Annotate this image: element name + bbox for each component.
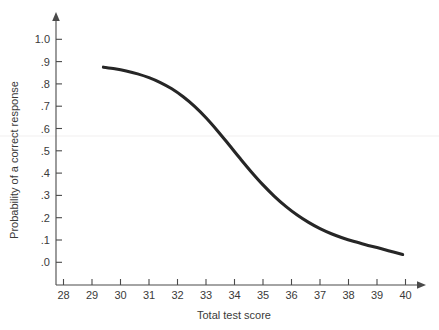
y-tick-label: .0 bbox=[41, 256, 50, 268]
x-axis-title: Total test score bbox=[197, 309, 271, 321]
x-tick-label: 33 bbox=[200, 289, 212, 301]
x-axis-arrow-icon bbox=[417, 281, 426, 289]
x-tick-label: 38 bbox=[342, 289, 354, 301]
x-tick-label: 39 bbox=[371, 289, 383, 301]
x-tick-label: 32 bbox=[171, 289, 183, 301]
y-tick-marks bbox=[56, 39, 62, 262]
y-tick-label: 1.0 bbox=[35, 33, 50, 45]
y-tick-label: .5 bbox=[41, 145, 50, 157]
x-tick-label: 35 bbox=[257, 289, 269, 301]
y-tick-label: .1 bbox=[41, 234, 50, 246]
x-tick-label: 37 bbox=[314, 289, 326, 301]
y-axis-title: Probability of a correct response bbox=[8, 81, 20, 239]
probability-curve-chart: 1.0 .9 .8 .7 .6 .5 .4 .3 .2 .1 .0 28 29 bbox=[0, 0, 439, 330]
x-tick-marks bbox=[64, 279, 406, 285]
x-tick-label: 29 bbox=[86, 289, 98, 301]
probability-curve-line bbox=[103, 67, 402, 254]
y-axis-arrow-icon bbox=[52, 12, 60, 21]
x-tick-label: 36 bbox=[285, 289, 297, 301]
x-tick-label: 30 bbox=[114, 289, 126, 301]
y-tick-label: .6 bbox=[41, 123, 50, 135]
y-tick-label: .4 bbox=[41, 167, 50, 179]
x-tick-label: 34 bbox=[228, 289, 240, 301]
x-tick-label: 31 bbox=[143, 289, 155, 301]
x-tick-label: 28 bbox=[57, 289, 69, 301]
y-tick-label: .3 bbox=[41, 189, 50, 201]
x-tick-label: 40 bbox=[399, 289, 411, 301]
y-tick-label: .8 bbox=[41, 78, 50, 90]
y-tick-label: .7 bbox=[41, 100, 50, 112]
chart-page: 1.0 .9 .8 .7 .6 .5 .4 .3 .2 .1 .0 28 29 bbox=[0, 0, 439, 330]
y-tick-label: .2 bbox=[41, 212, 50, 224]
y-tick-label: .9 bbox=[41, 56, 50, 68]
